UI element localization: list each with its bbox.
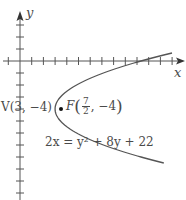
focus-y-value: −4 xyxy=(98,99,116,113)
x-axis-label: x xyxy=(174,66,181,79)
y-axis-label: y xyxy=(26,6,33,19)
focus-x-denominator: 2 xyxy=(82,107,90,116)
focus-open-paren: ( xyxy=(74,96,81,116)
focus-close-paren: ) xyxy=(116,96,123,116)
focus-point xyxy=(59,107,63,111)
vertex-label: V(3, −4) xyxy=(1,101,52,113)
focus-label: F(72, −4) xyxy=(66,97,123,117)
focus-x-fraction: 72 xyxy=(82,97,90,117)
equation-label: 2x = y² + 8y + 22 xyxy=(45,136,154,148)
